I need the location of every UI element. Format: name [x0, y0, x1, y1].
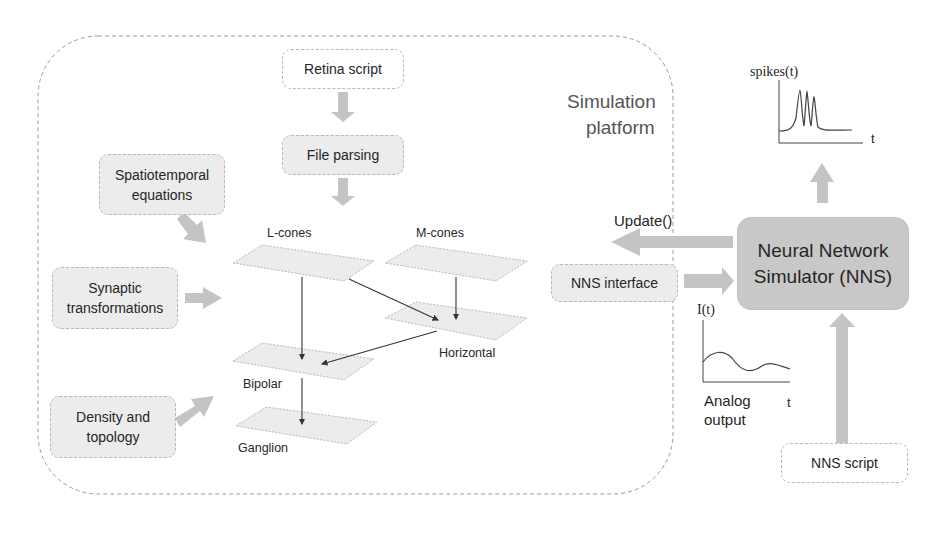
horizontal-label: Horizontal	[439, 346, 495, 360]
analog-plot	[703, 320, 790, 382]
spikes-time-axis-label: t	[871, 131, 875, 146]
density-label-line1: Density and	[76, 407, 150, 427]
bipolar-label: Bipolar	[243, 377, 282, 391]
retina-script-box[interactable]: Retina script	[282, 49, 404, 89]
arrow-nns-to-spikes	[810, 163, 834, 203]
analog-time-axis-label: t	[787, 395, 791, 410]
arrow-synaptic-to-layers	[185, 287, 222, 309]
density-label-line2: topology	[76, 427, 150, 447]
spikes-label: spikes(t)	[750, 64, 798, 80]
arrow-interface-to-nns	[684, 267, 734, 295]
conn-horizontal-bipolar	[322, 331, 437, 364]
file-parsing-label: File parsing	[307, 145, 379, 165]
nns-label-line2: Simulator (NNS)	[754, 264, 892, 290]
platform-title-line2: platform	[567, 115, 656, 141]
arrow-update	[611, 228, 733, 256]
nns-label-line1: Neural Network	[754, 238, 892, 264]
arrow-density-to-layers	[175, 396, 214, 427]
input-current-label: I(t)	[697, 302, 715, 318]
arrow-parsing-to-lcones	[331, 178, 355, 206]
platform-title-line1: Simulation	[567, 89, 656, 115]
l-cones-label: L-cones	[267, 226, 311, 240]
arrow-spatiotemporal-to-layers	[177, 212, 206, 243]
arrow-script-to-nns	[829, 313, 855, 445]
arrow-retina-to-parsing	[331, 92, 355, 122]
nns-interface-box[interactable]: NNS interface	[551, 264, 678, 302]
platform-title: Simulation platform	[567, 89, 656, 141]
file-parsing-box[interactable]: File parsing	[282, 135, 404, 175]
synaptic-transformations-box[interactable]: Synaptic transformations	[52, 267, 178, 329]
nns-script-label: NNS script	[811, 453, 878, 473]
ganglion-label: Ganglion	[238, 441, 288, 455]
layer-bipolar	[233, 343, 374, 380]
nns-interface-label: NNS interface	[571, 273, 658, 293]
spike-trace	[779, 90, 852, 131]
analog-trace	[703, 352, 790, 370]
spatiotemporal-equations-box[interactable]: Spatiotemporal equations	[99, 154, 225, 215]
layer-connections	[302, 277, 456, 424]
synaptic-label-line2: transformations	[67, 298, 163, 318]
spikes-plot	[779, 80, 863, 143]
analog-output-label: Analog output	[704, 391, 751, 429]
synaptic-label-line1: Synaptic	[67, 278, 163, 298]
neural-network-simulator-box[interactable]: Neural Network Simulator (NNS)	[737, 217, 909, 310]
update-label: Update()	[614, 212, 672, 229]
nns-script-box[interactable]: NNS script	[781, 443, 908, 483]
layer-m-cones	[385, 245, 527, 281]
layer-ganglion	[236, 407, 377, 444]
spatiotemporal-label-line1: Spatiotemporal	[115, 165, 209, 185]
retina-layers	[233, 245, 527, 444]
retina-script-label: Retina script	[304, 59, 382, 79]
analog-label-line2: output	[704, 410, 751, 429]
density-topology-box[interactable]: Density and topology	[50, 396, 176, 458]
spatiotemporal-label-line2: equations	[115, 185, 209, 205]
layer-l-cones	[233, 245, 374, 281]
m-cones-label: M-cones	[416, 226, 464, 240]
analog-label-line1: Analog	[704, 391, 751, 410]
